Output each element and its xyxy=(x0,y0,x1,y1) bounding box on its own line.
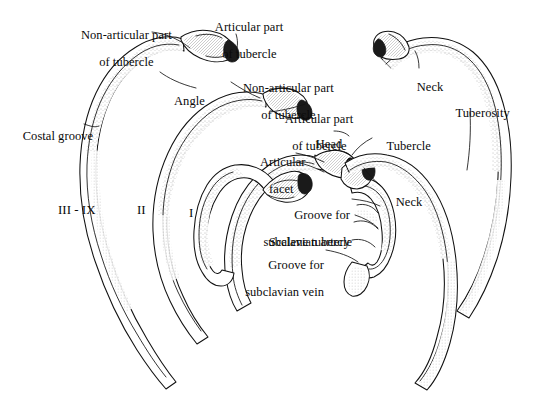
label-line-2: facet xyxy=(269,182,294,196)
rib-anatomy-figure: Non-articular part of tubercle Articular… xyxy=(0,0,534,401)
label-line-1: Angle xyxy=(174,94,205,108)
label-line-1: Head xyxy=(316,137,343,151)
rib-number-text: I xyxy=(189,205,193,220)
label-non-articular-part-of-tubercle-upper-left: Non-articular part of tubercle xyxy=(60,15,180,83)
rib-number-two: II xyxy=(124,186,146,234)
rib-number-text: II xyxy=(137,202,146,217)
label-line-1: Articular part xyxy=(215,20,283,34)
label-articular-part-of-tubercle-top: Articular part of tubercle xyxy=(192,7,294,75)
label-tuberosity: Tuberosity xyxy=(443,93,510,134)
label-line-1: Neck xyxy=(417,80,444,94)
rib-number-three-to-nine: III - IX xyxy=(45,186,96,234)
label-line-2: subclavian vein xyxy=(245,285,324,299)
label-line-1: Groove for xyxy=(268,258,324,272)
label-neck-lower: Neck xyxy=(383,182,422,223)
label-line-2: of tubercle xyxy=(99,55,153,69)
rib-number-one: I xyxy=(176,189,193,237)
label-line-1: Non-articular part xyxy=(81,28,172,42)
label-costal-groove: Costal groove xyxy=(10,116,93,157)
label-angle: Angle xyxy=(162,81,205,122)
label-line-1: Neck xyxy=(396,195,423,209)
label-line-1: Articular xyxy=(260,155,306,169)
rib-number-text: III - IX xyxy=(58,202,96,217)
label-head: Head xyxy=(303,124,342,165)
label-line-2: of tubercle xyxy=(222,47,276,61)
label-line-1: Tubercle xyxy=(386,139,430,153)
label-line-1: Groove for xyxy=(294,208,350,222)
label-tubercle: Tubercle xyxy=(374,126,431,167)
label-line-1: Tuberosity xyxy=(455,106,509,120)
label-groove-for-subclavian-vein: Groove for subclavian vein xyxy=(206,245,324,313)
label-line-1: Costal groove xyxy=(23,129,93,143)
label-line-1: Non-articular part xyxy=(243,81,334,95)
label-neck-upper-right: Neck xyxy=(404,67,443,108)
